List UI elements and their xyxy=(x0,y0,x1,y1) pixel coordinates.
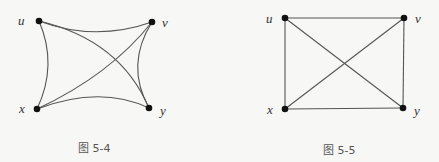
vertex-v xyxy=(401,15,408,22)
edge-u-y xyxy=(39,21,149,108)
figure-caption: 图 5-4 xyxy=(78,142,110,155)
vertex-label-v: v xyxy=(415,11,421,26)
figure-caption: 图 5-5 xyxy=(323,144,355,157)
edge-x-y xyxy=(285,108,403,109)
vertex-y xyxy=(400,105,407,112)
edge-v-y xyxy=(138,22,152,108)
vertex-u xyxy=(282,15,289,22)
vertex-label-y: y xyxy=(158,103,166,118)
vertex-x xyxy=(34,106,41,113)
vertex-u xyxy=(36,18,43,25)
edge-u-v xyxy=(39,21,152,32)
edge-x-y xyxy=(37,97,149,109)
graph-figures: u v x y 图 5-4 u v x y 图 5-5 xyxy=(0,0,439,162)
edge-v-y xyxy=(403,18,404,108)
vertex-y xyxy=(146,105,153,112)
vertex-v xyxy=(149,19,156,26)
figure-5-4: u v x y 图 5-4 xyxy=(18,13,168,155)
edge-u-y xyxy=(285,18,403,108)
vertex-label-x: x xyxy=(18,101,25,116)
vertex-label-v: v xyxy=(162,15,168,30)
vertex-label-x: x xyxy=(266,102,273,117)
vertex-label-u: u xyxy=(266,11,273,26)
figure-5-5: u v x y 图 5-5 xyxy=(266,11,421,157)
vertex-x xyxy=(282,106,289,113)
vertex-label-u: u xyxy=(18,13,25,28)
edge-u-x xyxy=(37,21,48,109)
vertex-label-y: y xyxy=(412,103,420,118)
edge-v-x xyxy=(37,22,152,109)
